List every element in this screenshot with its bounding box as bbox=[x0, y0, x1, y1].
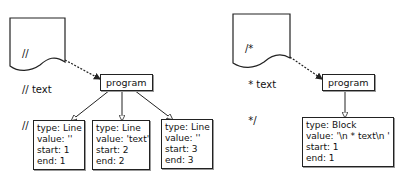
source-line: /* bbox=[245, 43, 276, 55]
program-node-right: program bbox=[322, 74, 375, 91]
line-node-2: type: Line value: 'text' start: 2 end: 2 bbox=[92, 120, 150, 170]
block-node: type: Block value: '\n * text\n ' start:… bbox=[302, 117, 394, 167]
source-line: // bbox=[22, 48, 52, 60]
program-node-left: program bbox=[100, 74, 153, 91]
node-start: start: 2 bbox=[96, 145, 146, 156]
source-line: * text bbox=[245, 79, 276, 91]
source-line: */ bbox=[245, 115, 276, 127]
node-end: end: 2 bbox=[96, 156, 146, 167]
node-type: type: Block bbox=[306, 120, 390, 131]
node-value: value: '' bbox=[165, 133, 209, 144]
source-document-right: /* * text */ bbox=[245, 19, 276, 139]
node-end: end: 1 bbox=[306, 153, 390, 164]
node-value: value: '\n * text\n ' bbox=[306, 131, 390, 142]
node-start: start: 1 bbox=[306, 142, 390, 153]
source-line: // text bbox=[22, 84, 52, 96]
line-node-1: type: Line value: '' start: 1 end: 1 bbox=[33, 120, 85, 170]
node-end: end: 3 bbox=[165, 155, 209, 166]
node-end: end: 1 bbox=[37, 156, 81, 167]
node-type: type: Line bbox=[37, 123, 81, 134]
node-type: type: Line bbox=[96, 123, 146, 134]
program-label: program bbox=[328, 77, 369, 88]
node-value: value: 'text' bbox=[96, 134, 146, 145]
node-start: start: 1 bbox=[37, 145, 81, 156]
program-label: program bbox=[106, 77, 147, 88]
node-start: start: 3 bbox=[165, 144, 209, 155]
line-node-3: type: Line value: '' start: 3 end: 3 bbox=[161, 119, 213, 169]
node-type: type: Line bbox=[165, 122, 209, 133]
node-value: value: '' bbox=[37, 134, 81, 145]
